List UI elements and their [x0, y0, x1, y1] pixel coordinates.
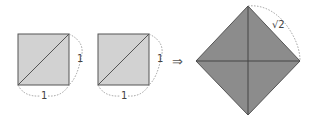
diagram-canvas: 1 1 1 1 ⇒ √2 — [0, 0, 320, 127]
result-square-rotated: √2 — [196, 6, 300, 115]
unit-square-1: 1 1 — [18, 34, 83, 101]
side-label-bottom: 1 — [41, 90, 47, 101]
side-label-right: 1 — [77, 53, 83, 64]
implies-arrow-icon: ⇒ — [172, 54, 183, 69]
side-label-right: 1 — [157, 53, 163, 64]
side-label-bottom: 1 — [121, 90, 127, 101]
side-label-sqrt2: √2 — [272, 19, 285, 30]
unit-square-2: 1 1 — [98, 34, 163, 101]
